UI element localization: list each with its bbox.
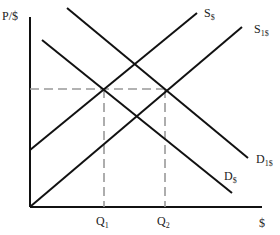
x-axis-label: $ — [259, 216, 265, 230]
q1-label: Q1 — [96, 214, 109, 230]
d-label: D$ — [224, 169, 237, 185]
s1-label: S1$ — [254, 22, 269, 38]
y-axis-label: P/$ — [2, 9, 18, 23]
supply-line-s — [30, 13, 197, 150]
q2-label: Q2 — [157, 214, 170, 230]
d1-label: D1$ — [256, 152, 273, 168]
supply-demand-chart: P/$ $ Q1 Q2 S$ S1$ D$ D1$ — [0, 0, 280, 235]
s-label: S$ — [204, 6, 215, 22]
